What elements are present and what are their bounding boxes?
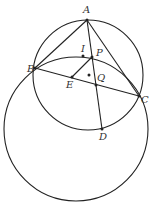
label-A: A xyxy=(82,4,90,15)
label-I: I xyxy=(80,43,86,54)
point-Q xyxy=(95,84,98,87)
segment-BC xyxy=(35,68,139,96)
point-I xyxy=(82,55,85,58)
geometry-diagram: ABCPIEQD xyxy=(0,0,156,210)
point-O xyxy=(88,74,91,77)
label-D: D xyxy=(98,131,107,142)
label-E: E xyxy=(65,79,74,90)
label-P: P xyxy=(95,47,103,58)
diagram-canvas: ABCPIEQD xyxy=(0,0,156,210)
point-A xyxy=(86,19,89,22)
point-P xyxy=(91,56,94,59)
label-C: C xyxy=(141,94,149,105)
label-Q: Q xyxy=(97,72,105,83)
label-B: B xyxy=(26,63,34,74)
